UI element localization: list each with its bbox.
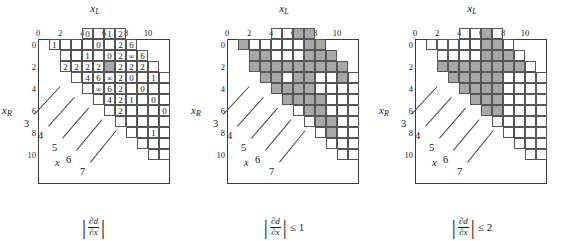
grid-cell: [337, 105, 348, 116]
grid-cell: [115, 116, 126, 127]
grid-cell: [304, 116, 315, 127]
cell-value: 2: [116, 29, 125, 38]
cell-value: 2: [116, 95, 125, 104]
grid-cell: [492, 94, 503, 105]
y-tick-label: 0: [221, 40, 225, 50]
grid-cell: [82, 39, 93, 50]
caption-relation: ≤ 1: [287, 222, 304, 233]
y-axis-title-subscript: R: [7, 109, 12, 118]
grid-cell: [448, 61, 459, 72]
cell-value: 6: [105, 84, 114, 93]
fraction-numerator: ∂d: [458, 217, 469, 227]
y-tick-label: 2: [409, 62, 413, 72]
cell-value: 0: [160, 106, 169, 115]
grid-cell: [137, 138, 148, 149]
grid-cell: [459, 61, 470, 72]
grid-cell: 2: [115, 50, 126, 61]
grid-cell: [459, 83, 470, 94]
grid-cell: 2: [115, 105, 126, 116]
grid-cell: [326, 72, 337, 83]
grid-cell: 4: [104, 94, 115, 105]
grid-cell: ∞: [93, 83, 104, 94]
grid-cell: [437, 61, 448, 72]
grid-cell: [126, 105, 137, 116]
grid-cell: [282, 83, 293, 94]
y-tick-label: 8: [409, 128, 413, 138]
grid-cell: [514, 83, 525, 94]
grid-cell: [126, 83, 137, 94]
grid-cell: [148, 61, 159, 72]
grid-cell: [238, 39, 249, 50]
grid-cell: [503, 94, 514, 105]
y-axis-ticks: 0246810: [399, 39, 413, 184]
grid-cell: 4: [82, 72, 93, 83]
grid-cell: 0: [104, 50, 115, 61]
grid-cell: [137, 94, 148, 105]
cell-value: 0: [105, 51, 114, 60]
cell-value: 6: [127, 40, 136, 49]
grid-cell: [315, 39, 326, 50]
y-axis-title-subscript: R: [196, 109, 201, 118]
grid-cell: [326, 94, 337, 105]
cell-value: 2: [138, 62, 147, 71]
y-tick-label: 10: [217, 150, 226, 160]
grid-cell: 0: [148, 94, 159, 105]
grid-cell: 0: [93, 39, 104, 50]
grid-cell: [514, 138, 525, 149]
grid-cell: [126, 127, 137, 138]
grid-cell: ∞: [126, 50, 137, 61]
cell-value: 2: [116, 84, 125, 93]
cell-value: 6: [138, 51, 147, 60]
grid-cell: [492, 72, 503, 83]
grid-cell: 0: [159, 105, 170, 116]
grid-cell: [514, 50, 525, 61]
grid-cell: 6: [137, 50, 148, 61]
grid-cell: [492, 105, 503, 116]
grid-cell: [304, 94, 315, 105]
grid-cell: [260, 39, 271, 50]
grid-cell: [503, 72, 514, 83]
leader-label-6: 6: [255, 154, 260, 165]
grid-cell: [304, 83, 315, 94]
grid-cell: [93, 50, 104, 61]
grid-cell: [348, 94, 359, 105]
cell-value: 2: [116, 73, 125, 82]
grid-cell: [304, 50, 315, 61]
leader-label-3: 3: [24, 118, 29, 129]
grid-cell: [348, 149, 359, 160]
grid-cell: [271, 50, 282, 61]
figure-root: xL xR 0246810 0246810 0121026102∞6222222…: [0, 0, 568, 241]
cell-value: 2: [116, 40, 125, 49]
grid-cell: [492, 28, 503, 39]
grid-cell: [326, 105, 337, 116]
grid-cell: [437, 39, 448, 50]
cell-value: 0: [138, 84, 147, 93]
grid-cell: [337, 94, 348, 105]
cell-value: 4: [105, 95, 114, 104]
grid-cell: [459, 72, 470, 83]
cell-value: 1: [50, 40, 59, 49]
grid-cell: [470, 61, 481, 72]
grid-cell: [315, 127, 326, 138]
fraction-denominator: ∂x: [458, 228, 469, 237]
grid-cell: [525, 149, 536, 160]
grid-cell: [326, 50, 337, 61]
leader-label-3: 3: [401, 118, 406, 129]
grid-cell: 6: [126, 39, 137, 50]
grid-cell: [503, 61, 514, 72]
grid-cell: 2: [82, 61, 93, 72]
grid-cell: [304, 39, 315, 50]
y-tick-label: 0: [32, 40, 36, 50]
grid-cell: [93, 28, 104, 39]
grid-cell: [326, 127, 337, 138]
cell-value: 1: [127, 95, 136, 104]
cell-value: 2: [83, 62, 92, 71]
leader-label-4: 4: [227, 130, 232, 141]
grid-cell: [137, 105, 148, 116]
grid-cell: [459, 28, 470, 39]
grid-cell: [148, 116, 159, 127]
cell-value: 1: [149, 73, 158, 82]
grid-cell: [104, 39, 115, 50]
grid-cell: 2: [115, 83, 126, 94]
grid-cells: 0121026102∞6222222246∞201∞6204210201: [38, 28, 170, 173]
